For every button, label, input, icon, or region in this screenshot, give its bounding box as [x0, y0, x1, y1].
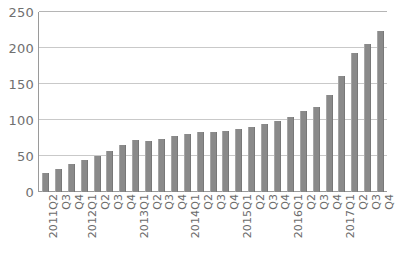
- bar[interactable]: [287, 117, 294, 192]
- bar[interactable]: [313, 107, 320, 192]
- x-axis-tick-label: Q4: [177, 194, 188, 210]
- x-axis-tick-label: Q2: [100, 194, 111, 210]
- x-axis-tick-label: Q3: [113, 194, 124, 210]
- bar[interactable]: [184, 134, 191, 192]
- bar[interactable]: [364, 44, 371, 192]
- bar[interactable]: [300, 111, 307, 192]
- plot-area: [38, 12, 387, 192]
- y-axis-tick-label: 100: [0, 114, 34, 127]
- bar[interactable]: [261, 124, 268, 192]
- x-axis-tick-label: Q4: [384, 194, 395, 210]
- bar[interactable]: [171, 136, 178, 192]
- bar[interactable]: [81, 160, 88, 192]
- x-axis-tick-label: Q3: [216, 194, 227, 210]
- bar[interactable]: [326, 95, 333, 192]
- x-axis-tick-label: Q4: [332, 194, 343, 210]
- x-axis-tick-label: 2013Q1: [139, 194, 150, 238]
- x-axis-tick-label: Q4: [74, 194, 85, 210]
- x-axis-tick-label: Q2: [358, 194, 369, 210]
- y-axis-tick-label: 50: [0, 150, 34, 163]
- bar[interactable]: [235, 129, 242, 192]
- bar[interactable]: [377, 31, 384, 192]
- bar[interactable]: [158, 139, 165, 192]
- x-axis: 2011Q2Q3Q42012Q1Q2Q3Q42013Q1Q2Q3Q42014Q1…: [38, 194, 386, 269]
- bar[interactable]: [197, 132, 204, 192]
- bar[interactable]: [68, 164, 75, 192]
- x-axis-tick-label: Q2: [152, 194, 163, 210]
- bar[interactable]: [274, 121, 281, 192]
- y-axis: 050100150200250: [0, 0, 34, 269]
- y-axis-tick-label: 0: [0, 186, 34, 199]
- bar[interactable]: [106, 151, 113, 192]
- x-axis-tick-label: Q2: [255, 194, 266, 210]
- y-axis-tick-label: 200: [0, 42, 34, 55]
- y-axis-tick-label: 150: [0, 78, 34, 91]
- bar[interactable]: [94, 156, 101, 192]
- x-axis-tick-label: Q4: [280, 194, 291, 210]
- x-axis-tick-label: 2016Q1: [293, 194, 304, 238]
- bar[interactable]: [222, 131, 229, 192]
- x-axis-tick-label: 2011Q2: [48, 194, 59, 238]
- bar[interactable]: [42, 173, 49, 192]
- x-axis-tick-label: Q3: [319, 194, 330, 210]
- x-axis-tick-label: Q4: [229, 194, 240, 210]
- x-axis-tick-label: Q3: [268, 194, 279, 210]
- bar[interactable]: [55, 169, 62, 192]
- bars-layer: [39, 12, 387, 192]
- bar[interactable]: [119, 145, 126, 192]
- bar[interactable]: [145, 141, 152, 192]
- x-axis-tick-label: Q3: [61, 194, 72, 210]
- x-axis-tick-label: 2017Q1: [345, 194, 356, 238]
- x-axis-tick-label: 2015Q1: [242, 194, 253, 238]
- x-axis-tick-label: Q3: [164, 194, 175, 210]
- bar[interactable]: [210, 132, 217, 192]
- x-axis-tick-label: Q3: [371, 194, 382, 210]
- y-axis-tick-label: 250: [0, 6, 34, 19]
- x-axis-tick-label: Q2: [306, 194, 317, 210]
- bar[interactable]: [338, 76, 345, 192]
- bar[interactable]: [351, 53, 358, 192]
- bar[interactable]: [248, 127, 255, 192]
- x-axis-tick-label: Q2: [203, 194, 214, 210]
- x-axis-tick-label: Q4: [126, 194, 137, 210]
- bar[interactable]: [132, 140, 139, 192]
- x-axis-tick-label: 2012Q1: [87, 194, 98, 238]
- x-axis-tick-label: 2014Q1: [190, 194, 201, 238]
